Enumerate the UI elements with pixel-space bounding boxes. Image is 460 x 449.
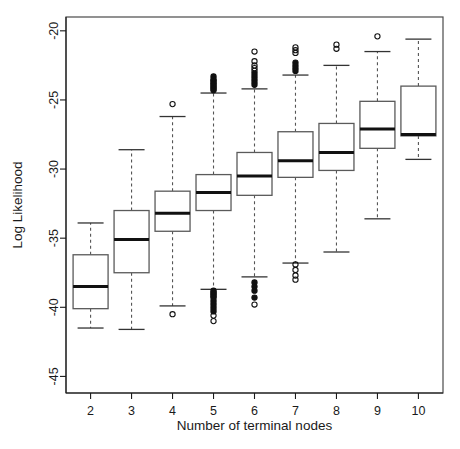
outlier-point [252, 302, 257, 307]
outlier-point [252, 82, 257, 87]
boxplot-group [114, 150, 149, 330]
outlier-point [293, 68, 298, 73]
outlier-point [252, 288, 257, 293]
outlier-point [170, 312, 175, 317]
y-tick-label: -25 [47, 91, 61, 109]
box-iqr [73, 255, 108, 309]
boxplot-group [278, 45, 313, 282]
plot-canvas: -20-25-30-35-40-45 2345678910 Number of … [0, 0, 460, 449]
box-iqr [360, 101, 395, 148]
outlier-point [375, 34, 380, 39]
x-tick-label: 10 [411, 404, 425, 418]
x-axis-title: Number of terminal nodes [177, 418, 333, 433]
y-axis: -20-25-30-35-40-45 [47, 17, 66, 393]
box-iqr [155, 191, 190, 231]
x-tick-label: 2 [87, 404, 94, 418]
box-iqr [401, 86, 436, 136]
boxplot-group [196, 74, 231, 324]
x-tick-label: 5 [210, 404, 217, 418]
box-series [73, 34, 436, 330]
x-tick-label: 4 [169, 404, 176, 418]
x-tick-label: 3 [128, 404, 135, 418]
box-iqr [319, 123, 354, 170]
outlier-point [252, 49, 257, 54]
x-axis: 2345678910 [66, 393, 443, 418]
boxplot-group [401, 39, 436, 159]
boxplot-group [155, 101, 190, 316]
x-tick-label: 8 [333, 404, 340, 418]
y-tick-label: -30 [47, 160, 61, 178]
outlier-point [293, 267, 298, 272]
outlier-point [211, 88, 216, 93]
boxplot-figure: -20-25-30-35-40-45 2345678910 Number of … [0, 0, 460, 449]
y-tick-label: -40 [47, 298, 61, 316]
box-iqr [278, 132, 313, 178]
x-tick-label: 9 [374, 404, 381, 418]
outlier-point [252, 295, 257, 300]
outlier-point [211, 319, 216, 324]
x-tick-label: 6 [251, 404, 258, 418]
y-axis-title: Log Likelihood [10, 161, 25, 248]
y-tick-label: -35 [47, 229, 61, 247]
boxplot-group [73, 223, 108, 328]
y-tick-label: -45 [47, 367, 61, 385]
box-iqr [114, 211, 149, 273]
outlier-point [170, 101, 175, 106]
box-iqr [237, 152, 272, 195]
boxplot-group [360, 34, 395, 219]
x-tick-label: 7 [292, 404, 299, 418]
boxplot-group [319, 42, 354, 252]
boxplot-group [237, 49, 272, 307]
y-tick-label: -20 [47, 22, 61, 40]
